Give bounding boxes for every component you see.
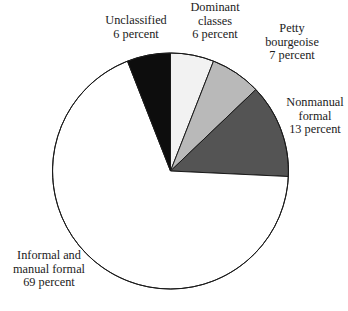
slice-label-line: Unclassified (98, 14, 174, 28)
slice-label-line: manual formal (2, 263, 96, 277)
slice-label-informal-and-manual-formal: Informal and manual formal 69 percent (2, 249, 96, 290)
pie-chart: Unclassified 6 percent Dominant classes … (0, 0, 348, 311)
slice-label-line: Dominant (178, 1, 252, 15)
slice-label-petty-bourgeoise: Petty bourgeoise 7 percent (249, 22, 335, 63)
slice-label-line: Informal and (2, 249, 96, 263)
slice-label-line: 6 percent (178, 28, 252, 42)
slice-label-line: 6 percent (98, 28, 174, 42)
slice-label-line: Petty (249, 22, 335, 36)
slice-label-dominant-classes: Dominant classes 6 percent (178, 1, 252, 42)
slice-label-line: classes (178, 15, 252, 29)
slice-label-line: 7 percent (249, 49, 335, 63)
slice-label-line: 69 percent (2, 276, 96, 290)
slice-label-line: 13 percent (283, 123, 347, 137)
slice-label-line: formal (283, 110, 347, 124)
slice-label-line: Nonmanual (283, 96, 347, 110)
slice-label-line: bourgeoise (249, 36, 335, 50)
slice-label-nonmanual-formal: Nonmanual formal 13 percent (283, 96, 347, 137)
slice-label-unclassified: Unclassified 6 percent (98, 14, 174, 41)
